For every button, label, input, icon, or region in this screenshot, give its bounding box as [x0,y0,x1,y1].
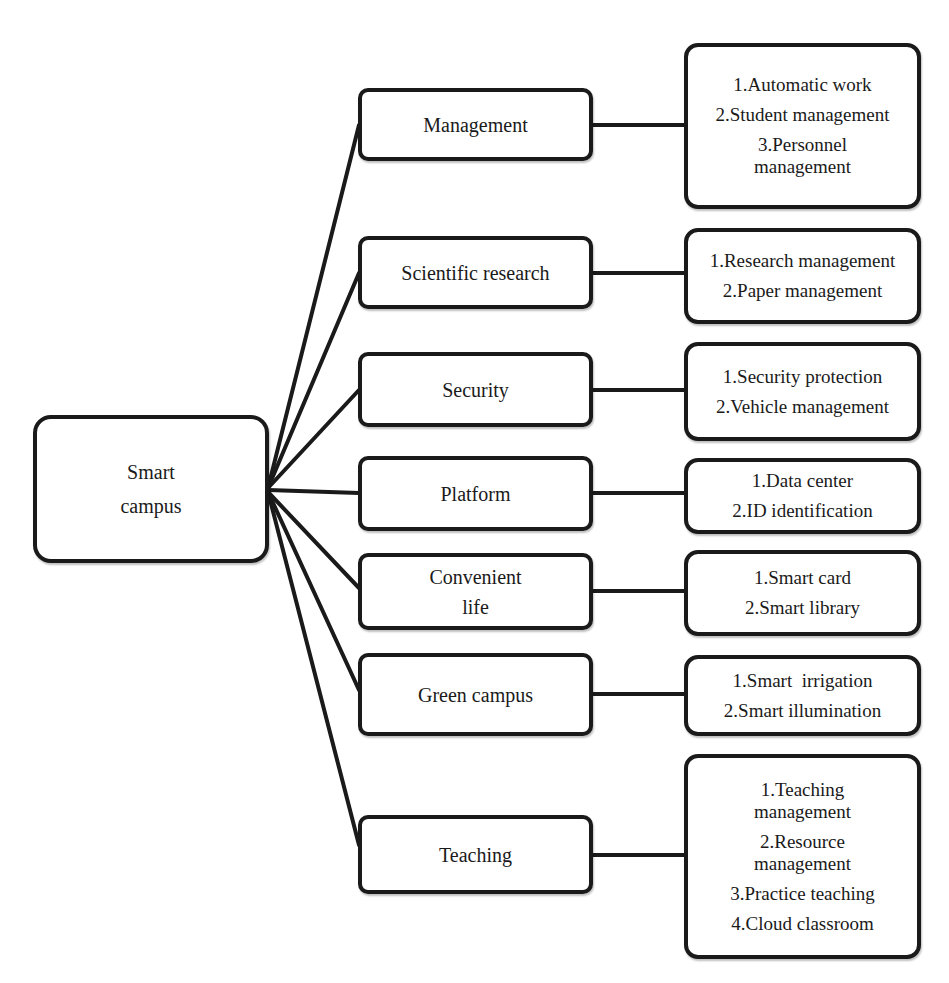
detail-item-text: 3.Practice teaching [730,883,875,905]
connector-root-teaching [268,492,359,845]
detail-node-convenient-life: 1.Smart card 2.Smart library [684,550,921,636]
category-label: life [462,592,489,622]
detail-item-text: 1.Data center [752,470,853,492]
detail-item-text: 1.Smart card [754,567,851,589]
detail-item: 2.Student management [715,104,889,126]
category-label: Management [423,110,527,140]
detail-item-text: 2.Vehicle management [716,396,889,418]
detail-node-platform: 1.Data center 2.ID identification [684,458,921,534]
detail-item-text: 4.Cloud classroom [731,913,874,935]
category-node-management: Management [358,88,593,161]
root-node-smart-campus: Smart campus [33,415,269,563]
root-label-line: Smart [127,455,175,489]
connector-root-scientific-research [268,273,359,488]
category-node-security: Security [358,352,593,427]
category-node-scientific-research: Scientific research [358,236,593,309]
detail-item-text: 2.ID identification [732,500,872,522]
detail-item-text: 1.Smart irrigation [733,670,873,692]
category-node-platform: Platform [358,456,593,531]
detail-item-text: 2.Paper management [723,280,882,302]
detail-item-text: management [754,156,851,178]
category-label: Teaching [439,840,512,870]
detail-item: 1.Automatic work [733,74,871,96]
detail-item-text: 1.Automatic work [733,74,871,96]
detail-item: 1.Data center [752,470,853,492]
category-label: Security [442,375,509,405]
detail-item: 2.Smart library [745,597,860,619]
detail-item: 2.Resource management [754,831,851,875]
detail-node-green-campus: 1.Smart irrigation 2.Smart illumination [684,655,921,736]
detail-node-security: 1.Security protection 2.Vehicle manageme… [684,342,921,441]
detail-item: 4.Cloud classroom [731,913,874,935]
detail-item: 1.Security protection [723,366,882,388]
connector-root-security [268,390,359,488]
detail-item: 3.Practice teaching [730,883,875,905]
detail-item-text: management [754,853,851,875]
detail-item-text: 1.Teaching [754,779,851,801]
detail-item: 2.Paper management [723,280,882,302]
detail-item-text: 2.Smart illumination [724,700,881,722]
detail-item-text: 1.Research management [710,250,896,272]
detail-node-teaching: 1.Teaching management 2.Resource managem… [684,754,921,959]
category-label: Scientific research [401,258,549,288]
detail-item-text: management [754,801,851,823]
category-node-convenient-life: Convenient life [358,553,593,630]
connector-root-platform [268,490,359,493]
detail-item-text: 2.Student management [715,104,889,126]
detail-item: 3.Personnel management [754,134,851,178]
detail-item-text: 2.Resource [754,831,851,853]
detail-item: 1.Teaching management [754,779,851,823]
connector-root-green-campus [268,492,359,690]
category-label: Green campus [418,680,533,710]
detail-item: 1.Smart card [754,567,851,589]
category-node-teaching: Teaching [358,815,593,894]
connector-root-management [268,125,359,488]
detail-node-management: 1.Automatic work 2.Student management 3.… [684,43,921,209]
category-label: Convenient [429,562,521,592]
detail-node-scientific-research: 1.Research management 2.Paper management [684,228,921,324]
detail-item: 2.Vehicle management [716,396,889,418]
detail-item: 1.Smart irrigation [733,670,873,692]
category-label: Platform [441,479,511,509]
root-label-line: campus [120,489,181,523]
detail-item-text: 3.Personnel [754,134,851,156]
detail-item: 1.Research management [710,250,896,272]
category-node-green-campus: Green campus [358,653,593,736]
detail-item-text: 2.Smart library [745,597,860,619]
smart-campus-diagram: Smart campus Management Scientific resea… [0,0,949,983]
detail-item: 2.Smart illumination [724,700,881,722]
detail-item-text: 1.Security protection [723,366,882,388]
connector-root-convenient-life [268,492,359,588]
detail-item: 2.ID identification [732,500,872,522]
